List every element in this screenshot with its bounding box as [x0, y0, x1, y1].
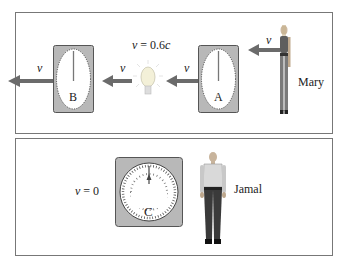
arrow-label-v: v [266, 33, 271, 48]
velocity-arrow-icon [102, 75, 132, 87]
velocity-label: v = 0.6c [132, 38, 170, 53]
clock-b-label: B [69, 90, 77, 105]
arrow-label-v: v [37, 61, 42, 76]
jamal-figure-icon [196, 151, 230, 247]
velocity-arrow-icon [166, 75, 198, 87]
mary-figure-icon [274, 24, 294, 116]
velocity-arrow-icon [8, 75, 54, 87]
arrow-label-v: v [120, 61, 125, 76]
jamal-label: Jamal [234, 182, 262, 197]
arrow-label-v: v [184, 61, 189, 76]
clock-a-label: A [214, 90, 223, 105]
mary-label: Mary [298, 75, 324, 90]
light-bulb-icon [136, 62, 160, 102]
rest-velocity-label: v = 0 [75, 184, 99, 199]
clock-c-label: C [144, 204, 153, 220]
